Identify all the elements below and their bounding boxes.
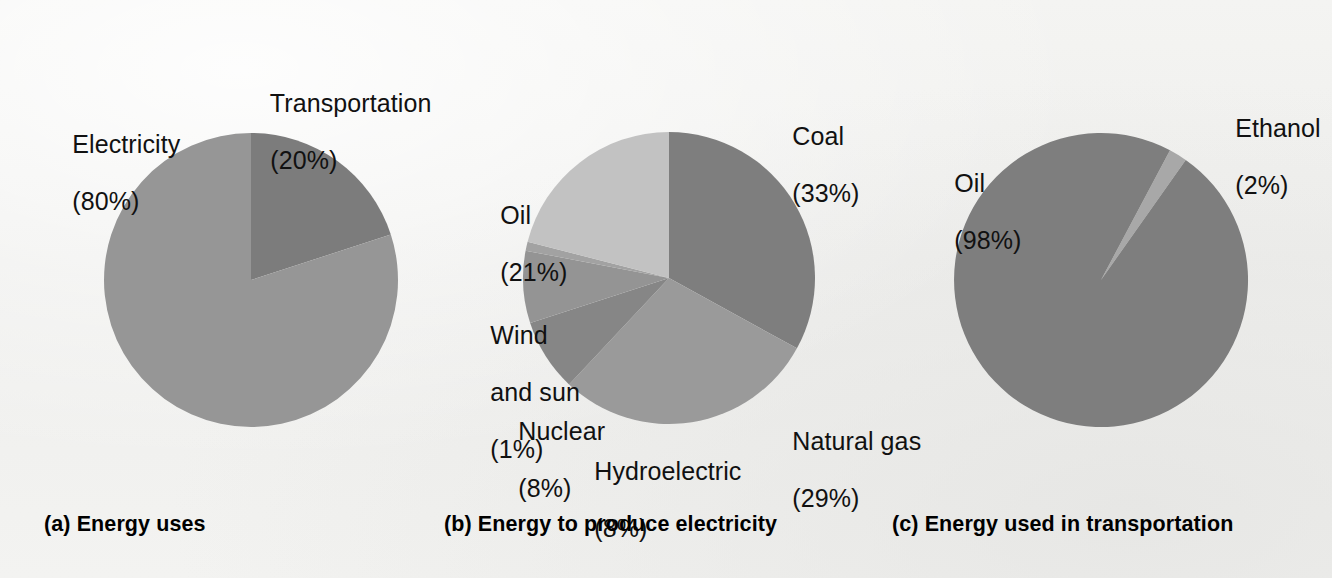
label-electricity-a: Electricity (80%) [30, 101, 180, 244]
label-transportation-a: Transportation (20%) [228, 60, 432, 203]
label-gas-pct: (29%) [792, 484, 859, 512]
label-ethanol-pct: (2%) [1235, 171, 1288, 199]
label-oil-c-name: Oil [954, 169, 985, 197]
caption-b: (b) Energy to produce electricity [444, 512, 777, 537]
label-hydroelectric-b: Hydroelectric (8%) [552, 428, 741, 571]
label-coal-pct: (33%) [792, 179, 859, 207]
label-electricity-pct: (80%) [72, 187, 139, 215]
chart-panel-a: Transportation (20%) Electricity (80%) (… [0, 0, 430, 578]
label-electricity-name: Electricity [72, 130, 180, 158]
label-oil-name: Oil [500, 201, 531, 229]
label-oil-c: Oil (98%) [912, 140, 1021, 283]
label-wind-name-line1: Wind [490, 321, 547, 349]
label-oil-c-pct: (98%) [954, 226, 1021, 254]
figure-canvas: Transportation (20%) Electricity (80%) (… [0, 0, 1332, 578]
caption-a: (a) Energy uses [44, 512, 206, 537]
label-hydro-name: Hydroelectric [594, 457, 741, 485]
chart-panel-c: Ethanol (2%) Oil (98%) (c) Energy used i… [880, 0, 1332, 578]
label-transportation-pct: (20%) [270, 146, 337, 174]
label-coal-name: Coal [792, 122, 844, 150]
label-ethanol-name: Ethanol [1235, 114, 1321, 142]
label-coal-b: Coal (33%) [750, 93, 859, 236]
label-transportation-name: Transportation [270, 89, 432, 117]
label-oil-pct: (21%) [500, 258, 567, 286]
caption-c: (c) Energy used in transportation [892, 512, 1233, 537]
chart-panel-b: Coal (33%) Oil (21%) Wind and sun (1%) N… [430, 0, 880, 578]
label-ethanol-c: Ethanol (2%) [1193, 85, 1321, 228]
